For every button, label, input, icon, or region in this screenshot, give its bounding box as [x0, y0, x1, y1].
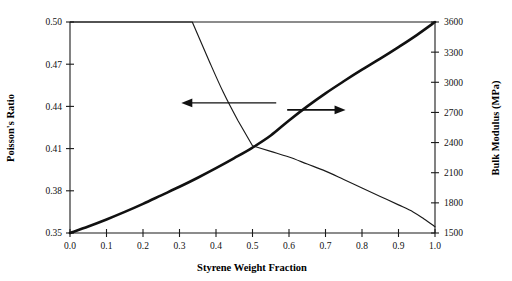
left-tick-label: 0.44 — [45, 102, 62, 112]
right-tick-label: 3300 — [444, 48, 463, 58]
x-tick-label: 0.3 — [174, 241, 186, 251]
left-tick-label: 0.41 — [45, 144, 62, 154]
x-tick-label: 0.5 — [247, 241, 259, 251]
x-tick-label: 0.1 — [101, 241, 113, 251]
right-tick-label: 2400 — [444, 138, 463, 148]
right-tick-label: 1800 — [444, 198, 463, 208]
y-axis-title: Poisson's Ratio — [5, 94, 16, 162]
right-tick-label: 2100 — [444, 168, 463, 178]
x-tick-label: 0.7 — [320, 241, 332, 251]
right-tick-label: 3600 — [444, 17, 463, 27]
x-tick-label: 0.4 — [210, 241, 222, 251]
right-tick-label: 3000 — [444, 78, 463, 88]
x-tick-label: 0.2 — [137, 241, 149, 251]
left-tick-label: 0.50 — [45, 17, 62, 27]
right-tick-label: 1500 — [444, 228, 463, 238]
left-tick-label: 0.47 — [45, 60, 62, 70]
x-tick-label: 0.0 — [64, 241, 76, 251]
x-axis-title: Styrene Weight Fraction — [197, 262, 307, 273]
left-tick-label: 0.38 — [45, 186, 62, 196]
x-tick-label: 1.0 — [429, 241, 441, 251]
secondary-y-axis-title: Bulk Modulus (MPa) — [490, 80, 502, 176]
x-tick-label: 0.8 — [356, 241, 368, 251]
chart-figure: 0.350.380.410.440.470.50 150018002100240… — [0, 0, 512, 281]
x-tick-label: 0.9 — [393, 241, 405, 251]
x-tick-label: 0.6 — [283, 241, 295, 251]
right-tick-label: 2700 — [444, 108, 463, 118]
left-tick-label: 0.35 — [45, 228, 62, 238]
